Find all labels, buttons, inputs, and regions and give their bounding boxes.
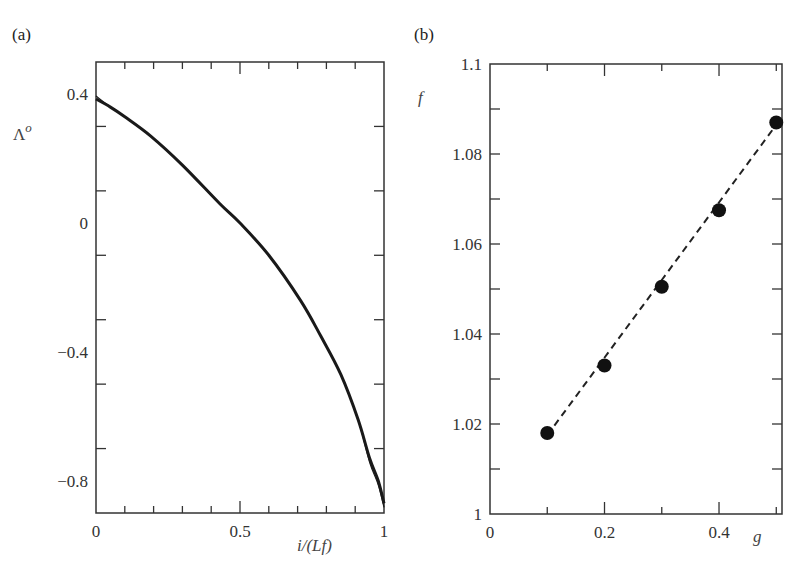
data-point (712, 203, 726, 217)
y-tick-label: 1 (474, 505, 483, 524)
y-tick-label: −0.8 (57, 472, 88, 491)
panel-b-xlabel: g (753, 527, 762, 546)
panel-a-curve (96, 99, 384, 503)
panel-b: (b) 00.20.411.021.041.061.081.1 f g (414, 25, 783, 546)
panel-b-ylabel: f (418, 88, 425, 107)
figure: (a) 00.510.40−0.4−0.8 Λo i/(Lf) (b) 00.2… (0, 0, 799, 574)
x-tick-label: 0.5 (229, 522, 250, 541)
panel-a-curve-overlap (96, 96, 384, 507)
data-point (598, 359, 612, 373)
data-point (655, 280, 669, 294)
y-tick-label: 1.06 (452, 235, 482, 254)
panel-b-ticks (490, 64, 782, 514)
panel-a-tick-labels: 00.510.40−0.4−0.8 (57, 85, 388, 541)
panel-b-frame (490, 64, 782, 514)
y-tick-label: −0.4 (57, 343, 88, 362)
panel-a-xlabel: i/(Lf) (297, 536, 332, 555)
x-tick-label: 0.4 (708, 523, 730, 542)
y-tick-label: 0 (80, 214, 89, 233)
y-tick-label: 1.08 (452, 145, 482, 164)
y-tick-label: 1.04 (452, 325, 482, 344)
data-point (769, 116, 783, 130)
panel-a-frame (96, 62, 384, 513)
panel-a-ylabel: Λo (13, 120, 32, 144)
x-tick-label: 0 (486, 523, 495, 542)
panel-b-label: (b) (414, 25, 434, 44)
panel-a-ticks (96, 62, 384, 513)
panel-a-label: (a) (12, 25, 31, 44)
x-tick-label: 1 (380, 522, 389, 541)
y-tick-label: 1.1 (461, 55, 482, 74)
x-tick-label: 0.2 (594, 523, 615, 542)
y-tick-label: 0.4 (67, 85, 89, 104)
x-tick-label: 0 (92, 522, 101, 541)
data-point (540, 426, 554, 440)
panel-a: (a) 00.510.40−0.4−0.8 Λo i/(Lf) (12, 25, 388, 555)
y-tick-label: 1.02 (452, 415, 482, 434)
